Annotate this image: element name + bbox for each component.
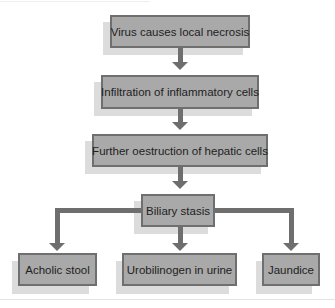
node-jaundice: Jaundice	[262, 253, 320, 286]
node-label: Jaundice	[268, 264, 314, 276]
connector-center-vertical	[178, 227, 183, 244]
node-biliary-stasis: Biliary stasis	[141, 194, 215, 227]
connector-left-horizontal	[55, 208, 141, 213]
arrow-down-icon	[172, 122, 188, 130]
arrow-down-icon	[172, 181, 188, 189]
node-hepatic-destruction: Further oestruction of hepatic cells	[92, 134, 268, 167]
node-virus-necrosis: Virus causes local necrosis	[110, 15, 250, 48]
node-label: Acholic stool	[25, 264, 90, 276]
node-acholic-stool: Acholic stool	[18, 253, 97, 286]
node-label: Urobilinogen in urine	[127, 264, 232, 276]
arrow-down-icon	[172, 62, 188, 70]
arrow-shaft	[178, 109, 183, 123]
connector-right-horizontal	[215, 208, 294, 213]
node-label: Biliary stasis	[146, 205, 210, 217]
arrow-down-icon	[283, 243, 299, 251]
connector-right-vertical	[289, 208, 294, 244]
arrow-shaft	[178, 48, 183, 62]
arrow-down-icon	[172, 243, 188, 251]
node-urobilinogen-urine: Urobilinogen in urine	[122, 253, 237, 286]
node-label: Infiltration of inflammatory cells	[101, 86, 259, 98]
arrow-shaft	[178, 167, 183, 182]
node-label: Virus causes local necrosis	[111, 26, 250, 38]
connector-left-vertical	[55, 208, 60, 244]
bottom-rule	[0, 299, 335, 300]
top-rule	[0, 1, 150, 2]
node-inflammatory-infiltration: Infiltration of inflammatory cells	[101, 75, 259, 109]
arrow-down-icon	[49, 243, 65, 251]
node-label: Further oestruction of hepatic cells	[92, 145, 268, 157]
